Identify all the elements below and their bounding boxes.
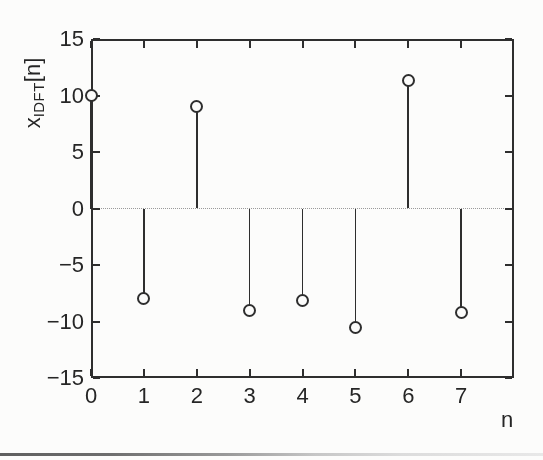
page-scan-artifact	[0, 453, 543, 456]
y-axis-tick	[505, 208, 512, 210]
x-axis-tick	[90, 41, 92, 48]
x-axis-tick	[460, 41, 462, 48]
stem-line	[196, 107, 198, 209]
x-tick-label: 7	[441, 384, 481, 408]
y-axis-tick	[93, 38, 100, 40]
y-tick-label: 0	[24, 197, 84, 221]
x-axis-tick	[302, 369, 304, 376]
y-tick-label: 15	[24, 27, 84, 51]
x-tick-label: 6	[388, 384, 428, 408]
y-axis-tick	[93, 151, 100, 153]
stem-line	[460, 209, 462, 313]
y-tick-label: −15	[24, 366, 84, 390]
y-axis-tick	[93, 321, 100, 323]
y-axis-tick	[505, 95, 512, 97]
y-axis-tick	[93, 377, 100, 379]
y-axis-label-base: x	[20, 117, 45, 128]
x-axis-tick	[354, 369, 356, 376]
x-tick-label: 2	[177, 384, 217, 408]
x-tick-label: 1	[124, 384, 164, 408]
y-axis-tick	[93, 264, 100, 266]
stem-plot-figure: xIDFT[n] n 01234567151050−5−10−15	[0, 0, 543, 460]
stem-line	[355, 209, 357, 328]
x-axis-tick	[196, 369, 198, 376]
y-tick-label: −5	[24, 253, 84, 277]
axis-bottom	[91, 376, 514, 378]
scanned-page: xIDFT[n] n 01234567151050−5−10−15	[0, 0, 543, 460]
stem-marker	[85, 89, 98, 102]
axis-right	[512, 39, 514, 378]
x-axis-tick	[143, 369, 145, 376]
x-axis-tick	[249, 369, 251, 376]
x-tick-label: 3	[230, 384, 270, 408]
y-tick-label: 10	[24, 84, 84, 108]
plot-area	[91, 39, 514, 378]
stem-line	[302, 209, 304, 301]
x-axis-tick	[302, 41, 304, 48]
y-axis-tick	[505, 151, 512, 153]
x-axis-tick	[196, 41, 198, 48]
stem-marker	[243, 304, 256, 317]
x-axis-tick	[90, 369, 92, 376]
stem-marker	[296, 294, 309, 307]
x-tick-label: 5	[335, 384, 375, 408]
y-axis-tick	[93, 208, 100, 210]
stem-marker	[137, 292, 150, 305]
x-tick-label: 4	[283, 384, 323, 408]
stem-line	[407, 81, 409, 209]
stem-marker	[455, 306, 468, 319]
y-axis-tick	[505, 321, 512, 323]
x-axis-tick	[407, 369, 409, 376]
y-tick-label: −10	[24, 310, 84, 334]
stem-marker	[190, 100, 203, 113]
stem-line	[143, 209, 145, 299]
y-axis-label-suffix: [n]	[20, 58, 45, 82]
stem-marker	[349, 321, 362, 334]
y-axis-tick	[505, 38, 512, 40]
y-axis-tick	[505, 264, 512, 266]
x-axis-tick	[354, 41, 356, 48]
y-tick-label: 5	[24, 140, 84, 164]
x-axis-label: n	[492, 408, 522, 432]
stem-marker	[402, 74, 415, 87]
x-axis-tick	[407, 41, 409, 48]
x-axis-tick	[143, 41, 145, 48]
x-axis-tick	[460, 369, 462, 376]
x-axis-tick	[249, 41, 251, 48]
y-axis-tick	[505, 377, 512, 379]
stem-line	[249, 209, 251, 311]
